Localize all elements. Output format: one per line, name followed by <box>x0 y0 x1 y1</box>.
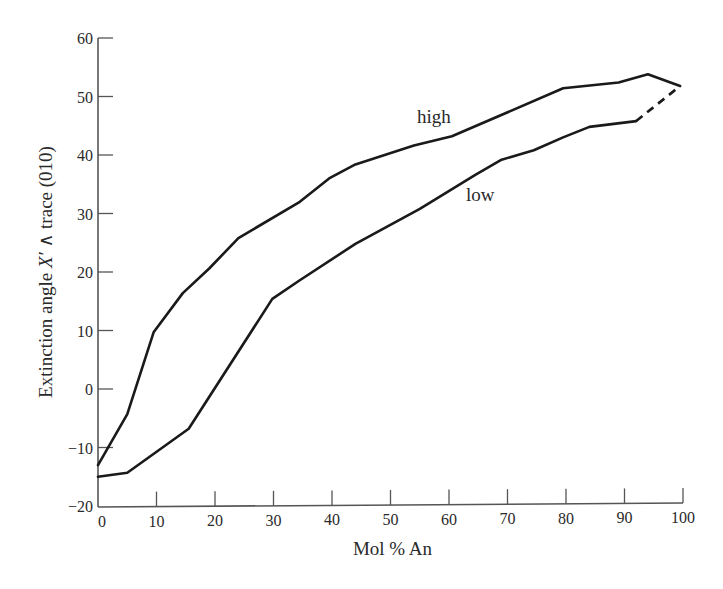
y-tick-label: 40 <box>77 147 93 164</box>
chart-plot: −20−100102030405060010203040506070809010… <box>0 0 723 589</box>
x-tick-label: 50 <box>383 511 399 528</box>
x-tick-label: 0 <box>98 513 106 530</box>
x-tick-label: 80 <box>558 510 574 527</box>
x-axis-title: Mol % An <box>0 538 723 560</box>
x-tick-label: 20 <box>207 512 223 529</box>
y-tick-label: 50 <box>77 89 93 106</box>
x-tick-label: 40 <box>324 511 340 528</box>
x-tick-label: 10 <box>149 513 165 530</box>
y-tick-label: 60 <box>77 30 93 47</box>
x-tick-label: 100 <box>671 509 695 526</box>
series-label-low: low <box>466 184 495 206</box>
y-tick-label: −20 <box>68 498 93 515</box>
y-tick-label: 10 <box>77 323 93 340</box>
series-label-high: high <box>417 106 451 128</box>
x-tick-label: 60 <box>441 511 457 528</box>
y-axis-title-symbol: X′ <box>35 252 56 268</box>
x-tick-label: 70 <box>500 510 516 527</box>
x-tick-label: 90 <box>617 509 633 526</box>
series-layer <box>98 74 680 477</box>
y-axis-title-suffix: ∧ trace (010) <box>35 146 56 252</box>
y-tick-label: −10 <box>68 440 93 457</box>
series-line-low-extrapolated <box>636 86 680 121</box>
y-tick-label: 20 <box>77 264 93 281</box>
series-line-high <box>98 74 680 465</box>
y-axis-title: Extinction angle X′ ∧ trace (010) <box>34 146 57 398</box>
x-tick-label: 30 <box>266 512 282 529</box>
y-tick-label: 30 <box>77 206 93 223</box>
axes: −20−100102030405060010203040506070809010… <box>68 30 695 530</box>
y-axis-title-prefix: Extinction angle <box>35 268 56 398</box>
y-tick-label: 0 <box>85 381 93 398</box>
